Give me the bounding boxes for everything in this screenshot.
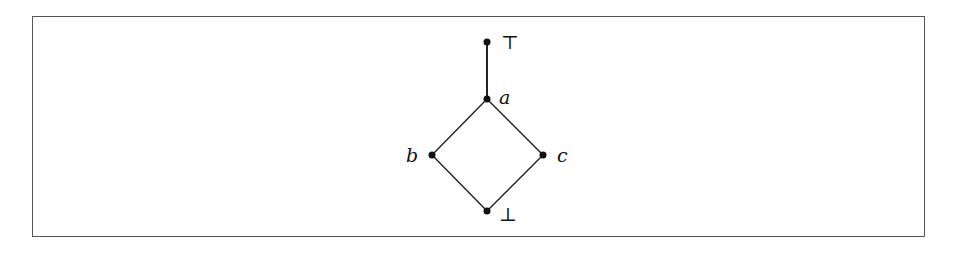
edge-a-b <box>432 99 487 155</box>
node-label-c: c <box>557 144 568 166</box>
node-c <box>540 152 547 159</box>
edges <box>432 42 543 211</box>
node-label-bottom: ⊥ <box>499 203 517 225</box>
node-b <box>429 152 436 159</box>
node-label-a: a <box>499 86 510 108</box>
node-a <box>484 96 491 103</box>
edge-a-c <box>487 99 543 155</box>
node-top <box>484 39 491 46</box>
edge-b-bottom <box>432 155 487 211</box>
node-bottom <box>484 208 491 215</box>
node-label-b: b <box>406 144 418 166</box>
node-label-top: ⊤ <box>501 31 519 53</box>
hasse-diagram: ⊤abc⊥ <box>0 0 956 256</box>
